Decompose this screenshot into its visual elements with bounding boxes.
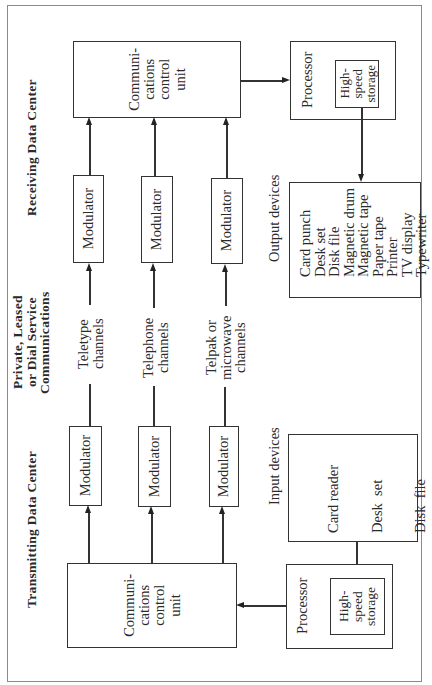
output-device-item: Card punch	[298, 189, 313, 277]
arrow-mod1-to-comm-line	[89, 124, 91, 175]
arrow-up-icon	[219, 506, 225, 514]
arrow-comm-to-mod3-line	[222, 513, 224, 564]
receiving-storage-label: High- speed storage	[338, 65, 377, 103]
transmitting-comm-control-unit: Communi- cations control unit	[67, 563, 237, 648]
input-devices-list: Card reader Desk set Disk file Factory d…	[297, 441, 432, 533]
arrow-comm-to-processor-line	[241, 80, 283, 82]
arrow-up-icon	[86, 117, 92, 125]
input-device-item: Disk file	[413, 441, 428, 533]
arrow-up-icon	[150, 263, 156, 271]
transmitting-high-speed-storage: High- speed storage	[330, 578, 385, 635]
arrow-left-icon	[236, 602, 244, 608]
receiving-comm-control-unit: Communi- cations control unit	[73, 41, 241, 118]
output-device-item: TV display	[400, 189, 415, 277]
header-receiving-data-center: Receiving Data Center	[25, 86, 39, 216]
channel-1-line-lower	[89, 384, 91, 426]
channel-telephone-label: Telephone channels	[141, 308, 170, 388]
transmitting-modulator-1: Modulator	[69, 426, 102, 506]
receiving-comm-control-unit-label: Communi- cations control unit	[127, 48, 188, 111]
arrow-comm-to-mod2-line	[151, 513, 153, 564]
channel-2-line-upper	[153, 270, 155, 308]
input-device-item: Card reader	[326, 441, 341, 533]
arrow-comm-to-mod1-line	[88, 512, 90, 564]
channel-1-line-upper	[89, 270, 91, 305]
input-devices-box: Card reader Desk set Disk file Factory d…	[288, 434, 418, 542]
arrow-mod3-to-comm-line	[226, 124, 228, 178]
arrow-right-icon	[282, 77, 290, 83]
receiving-processor: Processor High- speed storage	[290, 41, 396, 120]
arrow-up-icon	[86, 263, 92, 271]
transmitting-processor-label: Processor	[295, 565, 310, 647]
header-transmitting-data-center: Transmitting Data Center	[25, 462, 39, 608]
receiving-modulator-1: Modulator	[73, 175, 104, 263]
output-device-item: Printer	[385, 189, 400, 277]
channel-telpak-microwave-label: Telpak or microwave channels	[204, 310, 248, 386]
receiving-modulator-3: Modulator	[211, 178, 243, 264]
output-devices-label: Output devices	[267, 180, 282, 262]
transmitting-modulator-3: Modulator	[209, 426, 239, 507]
arrow-processor-to-comm-line	[244, 605, 287, 607]
receiving-processor-label: Processor	[300, 42, 315, 118]
output-device-item: Typewriter	[414, 189, 429, 277]
receiving-modulator-2: Modulator	[141, 176, 173, 263]
header-communications-line-2: or Dial Service	[25, 290, 39, 395]
receiving-high-speed-storage: High- speed storage	[335, 60, 379, 108]
header-communications-line-3: Communications	[38, 290, 52, 395]
arrow-up-icon	[148, 506, 154, 514]
header-communications: Private, Leased or Dial Service Communic…	[11, 290, 52, 395]
arrow-up-icon	[222, 264, 228, 272]
output-devices-box: Card punch Desk set Disk file Magnetic d…	[289, 182, 421, 298]
output-device-item: Disk file	[327, 189, 342, 277]
arrow-storage-to-output-line	[361, 107, 363, 175]
header-communications-line-1: Private, Leased	[11, 290, 25, 395]
channel-3-line-lower	[224, 387, 226, 426]
input-device-item: Desk set	[370, 441, 385, 533]
channel-3-line-upper	[225, 271, 227, 306]
transmitting-storage-label: High- speed storage	[337, 587, 378, 626]
channel-2-line-lower	[153, 386, 155, 426]
output-device-item: Desk set	[313, 189, 328, 277]
output-devices-list: Card punch Desk set Disk file Magnetic d…	[298, 189, 429, 277]
output-device-item: Magnetic tape	[356, 189, 371, 277]
arrow-up-icon	[85, 505, 91, 513]
transmitting-modulator-2: Modulator	[138, 426, 171, 507]
transmitting-comm-control-unit-label: Communi- cations control unit	[122, 574, 183, 637]
arrow-mod2-to-comm-line	[154, 124, 156, 176]
input-devices-label: Input devices	[267, 431, 282, 505]
output-device-item: Paper tape	[371, 189, 386, 277]
arrow-down-icon	[358, 174, 364, 182]
transmitting-processor: Processor High- speed storage	[286, 564, 393, 649]
arrow-up-icon	[223, 117, 229, 125]
arrow-up-icon	[151, 117, 157, 125]
channel-teletype-label: Teletype channels	[76, 308, 105, 380]
output-device-item: Magnetic drum	[342, 189, 357, 277]
